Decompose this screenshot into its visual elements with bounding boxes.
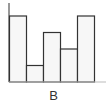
- bar-3: [44, 33, 61, 83]
- bar-4: [61, 49, 78, 82]
- bars-group: [10, 16, 95, 82]
- bar-2: [27, 66, 44, 83]
- bar-5: [78, 16, 95, 82]
- x-axis-label: B: [0, 89, 107, 103]
- bar-1: [10, 16, 27, 82]
